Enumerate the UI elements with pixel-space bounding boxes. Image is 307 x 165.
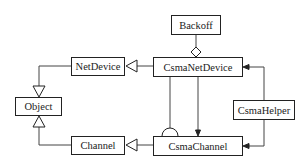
class-label: NetDevice (76, 61, 121, 72)
class-label: CsmaHelper (238, 105, 291, 116)
class-label: Object (25, 101, 53, 112)
class-net-device: NetDevice (71, 57, 125, 76)
inheritance-arrow-icon (126, 60, 137, 72)
inheritance-arrow-icon (126, 139, 137, 151)
class-channel: Channel (71, 136, 125, 155)
class-label: Channel (81, 140, 116, 151)
class-backoff: Backoff (171, 15, 221, 35)
class-label: CsmaChannel (169, 141, 228, 152)
inheritance-arrow-icon (33, 86, 45, 97)
class-object: Object (15, 97, 62, 116)
class-csma-net-device: CsmaNetDevice (153, 57, 243, 77)
class-label: Backoff (179, 20, 213, 31)
class-csma-channel: CsmaChannel (153, 136, 243, 156)
arrow-head-icon (243, 144, 249, 149)
socket-icon (162, 128, 178, 136)
aggregation-diamond-icon (191, 47, 201, 57)
inheritance-arrow-icon (33, 116, 45, 127)
class-label: CsmaNetDevice (164, 62, 233, 73)
class-csma-helper: CsmaHelper (233, 100, 295, 120)
arrow-head-icon (243, 65, 249, 70)
